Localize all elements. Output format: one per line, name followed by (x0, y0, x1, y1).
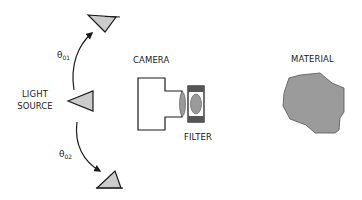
diagram-canvas: θ01 θ02 LIGHT SOURCE CAMERA FILTER MATER… (0, 0, 362, 200)
filter-icon (188, 86, 204, 122)
camera-label: CAMERA (133, 55, 170, 65)
camera-icon (138, 78, 186, 130)
rotation-arrow-lower (76, 122, 100, 171)
camera-lens (180, 92, 186, 116)
rotation-arrow-upper (73, 33, 92, 90)
angle-label-upper: θ01 (57, 50, 70, 61)
light-source-label-line1: LIGHT (22, 89, 49, 99)
light-source-middle (68, 91, 93, 111)
light-source-lower (96, 171, 123, 188)
material-sample (283, 73, 344, 133)
material-label: MATERIAL (291, 54, 334, 64)
light-source-upper (88, 15, 120, 32)
light-source-label-line2: SOURCE (17, 101, 53, 111)
measurement-setup-diagram: θ01 θ02 LIGHT SOURCE CAMERA FILTER MATER… (0, 0, 362, 200)
angle-label-lower: θ02 (59, 149, 72, 160)
filter-label: FILTER (184, 132, 212, 142)
